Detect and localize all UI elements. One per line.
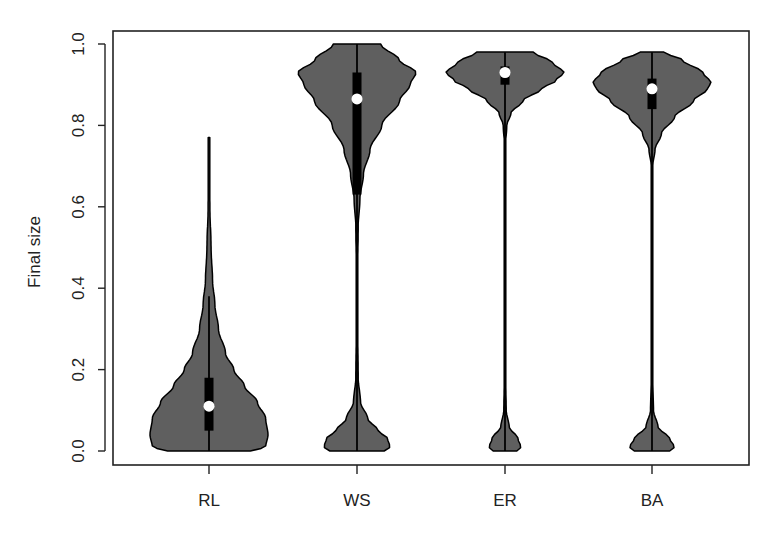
y-tick-label: 1.0 [69,32,88,56]
violin-median [500,67,511,78]
y-tick-label: 0.4 [69,276,88,300]
y-axis: 0.00.20.40.60.81.0 [69,32,105,463]
y-tick-label: 0.8 [69,114,88,138]
x-tick-label-ws: WS [343,491,370,510]
violin-er [446,52,564,451]
violin-ws [298,44,415,451]
violins-group [150,44,711,451]
violin-median [647,83,658,94]
y-tick-label: 0.0 [69,439,88,463]
x-tick-label-er: ER [493,491,517,510]
violin-ba [593,52,711,451]
violin-chart: 0.00.20.40.60.81.0 RLWSERBA Final size [0,0,774,536]
y-tick-label: 0.2 [69,358,88,382]
x-tick-label-rl: RL [198,491,220,510]
x-tick-label-ba: BA [641,491,664,510]
x-axis: RLWSERBA [198,465,664,510]
violin-rl [150,138,268,451]
violin-median [204,401,215,412]
violin-median [352,93,363,104]
violin-iqr-box [353,72,362,194]
y-axis-label: Final size [25,216,44,288]
y-tick-label: 0.6 [69,195,88,219]
